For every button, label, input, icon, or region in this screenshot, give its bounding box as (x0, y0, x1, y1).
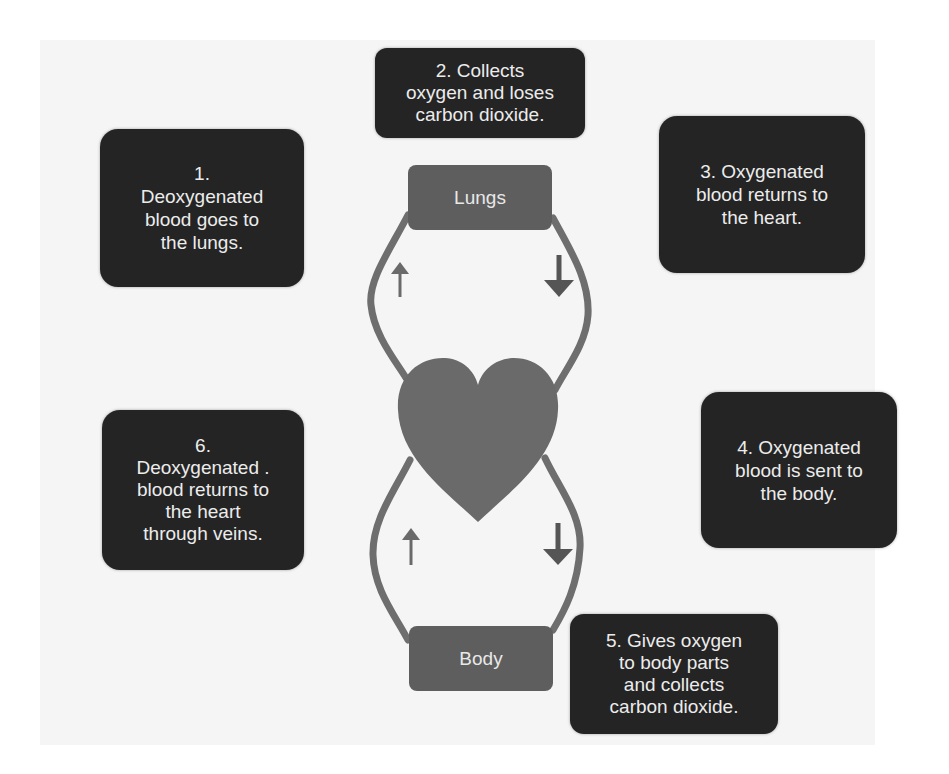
vessel-lower-right (545, 458, 580, 630)
arrow-down-icon (544, 255, 574, 297)
step-1-text: 1. Deoxygenated blood goes to the lungs. (141, 162, 264, 254)
step-2-text: 2. Collects oxygen and loses carbon diox… (406, 60, 554, 126)
step-6-text: 6. Deoxygenated . blood returns to the h… (136, 435, 269, 545)
step-3-text: 3. Oxygenated blood returns to the heart… (696, 160, 828, 229)
vessel-lower-left (373, 460, 410, 640)
body-box: Body (409, 626, 553, 691)
step-5-text: 5. Gives oxygen to body parts and collec… (606, 630, 742, 718)
vessel-upper-left (371, 215, 408, 378)
body-label: Body (459, 648, 502, 670)
step-1-box: 1. Deoxygenated blood goes to the lungs. (100, 129, 304, 287)
step-6-box: 6. Deoxygenated . blood returns to the h… (102, 410, 304, 570)
step-2-box: 2. Collects oxygen and loses carbon diox… (375, 48, 585, 138)
arrow-up-icon (391, 262, 409, 297)
step-5-box: 5. Gives oxygen to body parts and collec… (570, 614, 778, 734)
heart-icon (398, 358, 558, 522)
step-3-box: 3. Oxygenated blood returns to the heart… (659, 116, 865, 273)
step-4-box: 4. Oxygenated blood is sent to the body. (701, 392, 897, 548)
step-4-text: 4. Oxygenated blood is sent to the body. (735, 436, 863, 505)
arrow-up-icon (402, 528, 420, 565)
vessel-upper-right (553, 218, 588, 390)
lungs-label: Lungs (454, 187, 506, 209)
lungs-box: Lungs (408, 165, 552, 230)
arrow-down-icon (543, 523, 573, 565)
